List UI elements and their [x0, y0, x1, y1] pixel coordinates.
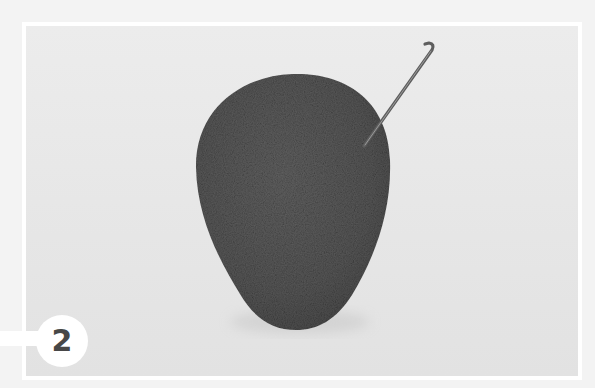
step-number: 2 — [52, 326, 73, 356]
step-badge: 2 — [36, 315, 88, 367]
felted-egg-photo — [0, 0, 595, 388]
felted-egg — [196, 74, 390, 330]
felting-needle-icon — [364, 43, 433, 146]
